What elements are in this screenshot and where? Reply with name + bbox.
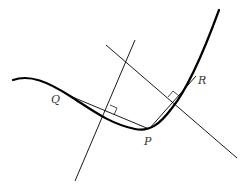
label-p: P xyxy=(143,135,152,148)
label-q: Q xyxy=(51,93,60,106)
right-angle-marker-pr xyxy=(168,91,179,97)
bisector-pr xyxy=(106,45,237,158)
diagram-canvas: Q R P xyxy=(0,0,251,189)
label-r: R xyxy=(197,74,206,87)
curve xyxy=(13,10,219,130)
bisector-qp xyxy=(75,40,135,181)
